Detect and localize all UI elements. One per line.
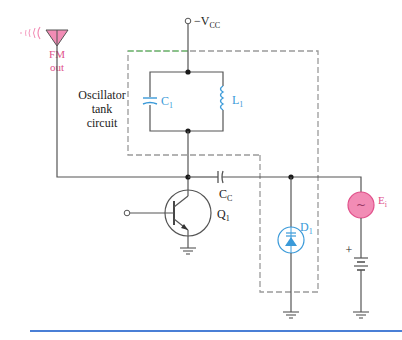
tank-bottom-wire [150,105,223,131]
vcc-label: −VCC [194,14,220,30]
inductor-l1-icon [221,86,224,110]
l1-label: L1 [232,93,243,109]
ei-label: Ei [378,194,388,209]
ground-icon [283,312,299,318]
ground-icon [353,312,369,318]
fm-modulator-schematic: FM out −VCC Oscillator tank circuit C1 L… [0,0,402,340]
battery-icon [354,258,368,270]
tank-label-line2: tank [92,102,113,116]
junction-dot [185,69,190,74]
ac-symbol: ~ [356,198,366,212]
antenna-icon [20,27,68,46]
tank-label-line1: Oscillator [78,88,125,102]
cc-label: CC [219,187,232,203]
antenna-feed-wire [57,46,188,177]
base-input-terminal-icon [124,210,130,216]
q1-label: Q1 [217,207,230,223]
capacitor-c1-icon [143,98,157,104]
battery-plus-label: + [346,243,353,257]
tank-label-line3: circuit [87,116,118,130]
vcc-terminal-icon [185,18,191,24]
c1-label: C1 [161,94,173,110]
d1-label: D1 [300,220,313,236]
ground-icon [180,248,196,254]
